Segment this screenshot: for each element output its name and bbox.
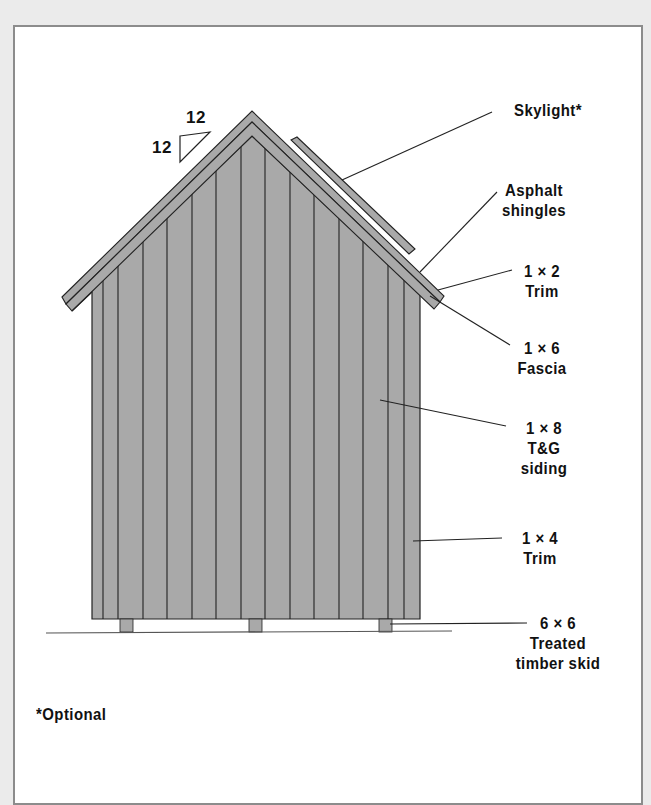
pitch-run-label: 12 <box>186 108 206 128</box>
pitch-rise-label: 12 <box>152 138 172 158</box>
callout-trim-1x4: 1 × 4 Trim <box>509 529 571 569</box>
callout-fascia-1x6: 1 × 6 Fascia <box>510 339 573 379</box>
callout-siding-1x8: 1 × 8 T&G siding <box>512 419 575 479</box>
callout-trim-1x2: 1 × 2 Trim <box>514 262 570 302</box>
footnote-optional: *Optional <box>36 705 106 725</box>
callout-skid-6x6: 6 × 6 Treated timber skid <box>505 614 611 674</box>
timber-skids <box>120 619 392 632</box>
callout-asphalt-shingles: Asphalt shingles <box>495 181 572 221</box>
callout-skylight: Skylight* <box>504 101 592 121</box>
